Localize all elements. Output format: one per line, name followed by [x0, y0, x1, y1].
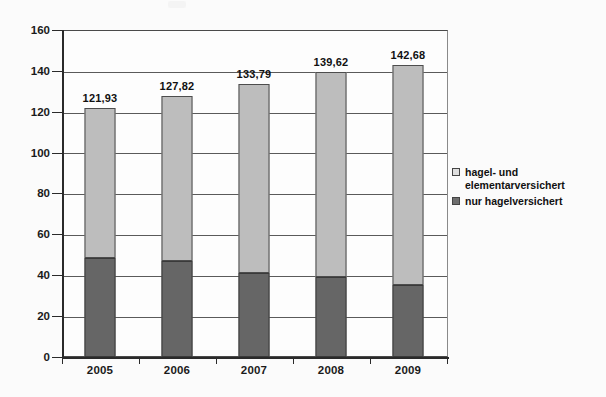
- data-label-2008: 139,62: [296, 56, 366, 68]
- legend-swatch-icon-elementar: [452, 168, 460, 176]
- legend-item-hagel[interactable]: nur hagelversichert: [452, 195, 602, 208]
- x-tick-2: [216, 357, 217, 364]
- legend-swatch-icon-hagel: [452, 197, 460, 205]
- y-axis-label-40: 40: [0, 269, 50, 281]
- y-tick-60: [52, 234, 62, 235]
- bar-segment-hagel-2007[interactable]: [239, 273, 270, 357]
- y-axis-label-80: 80: [0, 187, 50, 199]
- bar-segment-elementar-2009[interactable]: [393, 65, 424, 285]
- x-axis-label-2009: 2009: [378, 364, 438, 376]
- bar-2005[interactable]: [85, 108, 116, 357]
- x-tick-4: [370, 357, 371, 364]
- bar-segment-hagel-2008[interactable]: [316, 277, 347, 357]
- y-axis-label-60: 60: [0, 228, 50, 240]
- legend-item-elementar[interactable]: hagel- und elementarversichert: [452, 166, 602, 192]
- y-axis-label-0: 0: [0, 351, 50, 363]
- x-axis-label-2008: 2008: [301, 364, 361, 376]
- y-tick-140: [52, 71, 62, 72]
- legend: hagel- und elementarversichert nur hagel…: [452, 166, 602, 211]
- data-label-2006: 127,82: [142, 80, 212, 92]
- bar-2009[interactable]: [393, 65, 424, 357]
- y-tick-20: [52, 316, 62, 317]
- bar-segment-elementar-2007[interactable]: [239, 84, 270, 274]
- y-tick-100: [52, 153, 62, 154]
- data-label-2009: 142,68: [373, 49, 443, 61]
- data-label-2005: 121,93: [65, 92, 135, 104]
- y-axis-label-20: 20: [0, 310, 50, 322]
- bar-2007[interactable]: [239, 84, 270, 357]
- y-tick-80: [52, 193, 62, 194]
- data-label-2007: 133,79: [219, 68, 289, 80]
- x-axis: [62, 357, 449, 359]
- bar-segment-elementar-2006[interactable]: [162, 96, 193, 261]
- scan-artifact: [168, 1, 186, 8]
- x-tick-0: [62, 357, 63, 364]
- y-axis-label-140: 140: [0, 65, 50, 77]
- x-tick-1: [139, 357, 140, 364]
- bar-segment-hagel-2006[interactable]: [162, 261, 193, 357]
- y-axis: [62, 30, 64, 358]
- bar-segment-elementar-2005[interactable]: [85, 108, 116, 258]
- y-axis-label-160: 160: [0, 24, 50, 36]
- y-axis-label-100: 100: [0, 147, 50, 159]
- y-tick-40: [52, 275, 62, 276]
- y-tick-0: [52, 357, 62, 358]
- bar-segment-hagel-2009[interactable]: [393, 285, 424, 357]
- x-tick-5: [447, 357, 448, 364]
- x-axis-label-2006: 2006: [147, 364, 207, 376]
- y-axis-label-120: 120: [0, 106, 50, 118]
- x-axis-label-2007: 2007: [224, 364, 284, 376]
- x-tick-3: [293, 357, 294, 364]
- y-tick-120: [52, 112, 62, 113]
- x-axis-label-2005: 2005: [70, 364, 130, 376]
- bar-segment-hagel-2005[interactable]: [85, 258, 116, 357]
- bar-2006[interactable]: [162, 96, 193, 357]
- legend-label-elementar: hagel- und elementarversichert: [465, 166, 565, 192]
- bar-segment-elementar-2008[interactable]: [316, 72, 347, 278]
- stacked-bar-chart: 160 140 120 100 80 60 40 20 0 2005 2006 …: [0, 0, 606, 397]
- bar-2008[interactable]: [316, 72, 347, 357]
- y-tick-160: [52, 30, 62, 31]
- legend-label-hagel: nur hagelversichert: [465, 195, 562, 208]
